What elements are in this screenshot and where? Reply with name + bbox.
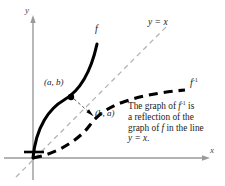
caption-line1-pre: The graph of: [128, 101, 178, 111]
caption-line-2: a reflection of the: [128, 112, 223, 123]
inverse-function-diagram: y x f f-1 y = x (a, b) (b, a) The graph …: [0, 0, 225, 186]
caption-line1-post: is: [186, 101, 195, 111]
curve-f: [33, 44, 97, 158]
curve-f-inverse-label: f-1: [190, 78, 198, 88]
caption-line3-pre: graph of: [128, 123, 162, 133]
curve-f-label: f: [95, 24, 98, 34]
identity-line-label: y = x: [148, 18, 168, 28]
caption-line-4: y = x.: [128, 133, 223, 144]
caption-line-1: The graph of f-1 is: [128, 101, 223, 112]
f-inverse-exponent: -1: [193, 76, 198, 83]
caption-line3-post: in the line: [164, 123, 204, 133]
x-axis-label: x: [210, 146, 214, 155]
caption-line-3: graph of f in the line: [128, 123, 223, 134]
caption-text: The graph of f-1 is a reflection of the …: [128, 101, 223, 144]
y-axis-label: y: [25, 6, 29, 15]
point-marker-ab: [68, 94, 74, 100]
point-label-ab: (a, b): [44, 78, 64, 87]
diagram-canvas: [0, 0, 225, 186]
reflection-connector: [74, 99, 94, 116]
point-label-ba: (b, a): [95, 109, 115, 118]
